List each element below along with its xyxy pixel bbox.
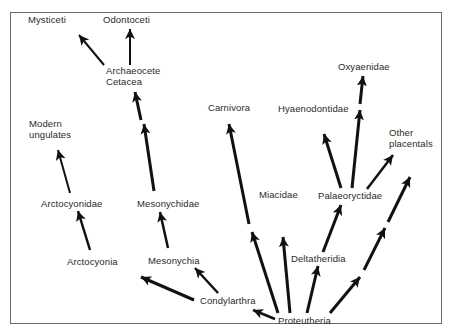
node-label-deltatheridia: Deltatheridia [291,253,346,264]
arrow-icon [229,124,249,224]
node-label-archaeocete: Archaeocete [106,65,160,76]
node-label-odontoceti: Odontoceti [103,14,150,25]
node-label-oxyaenidae: Oxyaenidae [338,61,390,72]
node-label-carnivora: Carnivora [208,102,250,113]
node-label-cetacea: Cetacea [106,76,142,87]
arrow-icon [330,277,360,313]
arrow-layer [0,0,451,332]
arrow-icon [360,76,363,104]
node-label-miacidae: Miacidae [259,189,298,200]
arrow-icon [79,35,104,65]
node-label-modern: Modern [29,118,62,129]
node-label-hyaenodontidae: Hyaenodontidae [278,103,349,114]
arrow-icon [78,211,90,250]
arrow-icon [364,228,385,270]
arrow-icon [324,134,341,188]
node-label-mesonychidae: Mesonychidae [137,198,199,209]
node-label-arctocyonidae: Arctocyonidae [41,198,103,209]
node-label-condylarthra: Condylarthra [200,295,256,306]
phylogeny-diagram: MysticetiOdontocetiArchaeoceteCetaceaMod… [0,0,451,332]
node-label-mysticeti: Mysticeti [28,14,66,25]
arrow-icon [253,310,275,319]
arrow-icon [388,177,410,222]
arrow-icon [195,268,218,293]
arrow-icon [58,150,70,193]
node-label-placentals: placentals [389,138,433,149]
arrow-icon [367,155,393,189]
node-label-arctocyonia: Arctocyonia [67,256,118,267]
arrow-icon [283,237,290,313]
node-label-ungulates: ungulates [29,129,71,140]
arrow-icon [141,277,194,300]
arrow-icon [307,266,318,313]
arrow-icon [323,205,341,252]
node-label-other: Other [389,127,413,138]
node-label-proteutheria: Proteutheria [278,315,331,326]
arrow-icon [160,212,168,248]
arrow-icon [135,92,141,120]
arrow-icon [352,110,360,188]
arrow-icon [144,124,154,191]
node-label-palaeoryctidae: Palaeoryctidae [318,190,382,201]
node-label-mesonychia: Mesonychia [148,255,200,266]
